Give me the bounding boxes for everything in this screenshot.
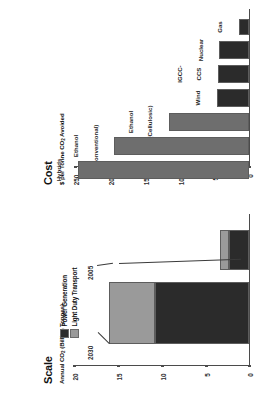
callout-2030: 2030: [87, 346, 94, 360]
bar-2005-power-generation: [229, 230, 249, 270]
scale-tick-0: [248, 365, 251, 366]
bar-label-ethanol-cellulosic: Ethanol (Cellulosic): [114, 106, 167, 139]
scale-ticklabel-20: 20: [72, 373, 79, 380]
bar-label-igcc-ccs-line1: IGCC-: [177, 65, 184, 82]
callout-2005-leader: [97, 263, 113, 266]
bar-igcc-ccs: [218, 65, 249, 83]
bar-label-hybrids-line1: Hybrids: [56, 159, 63, 182]
scale-tick-20: [73, 365, 76, 366]
bar-2005-light-duty-transport: [220, 230, 229, 270]
scale-tick-10: [161, 365, 164, 366]
scale-x-axis: [249, 214, 250, 366]
bar-label-wind-line1: Wind: [195, 91, 202, 106]
scale-axis-title-prefix: Annual CO: [58, 353, 65, 384]
cost-x-axis: [249, 9, 250, 167]
bar-label-gas-line1: Gas: [217, 20, 224, 34]
bar-2005: [220, 230, 249, 270]
scale-ticklabel-0: 0: [247, 373, 252, 377]
bar-ethanol-cellulosic: [169, 113, 249, 131]
bar-nuclear: [219, 41, 248, 59]
scale-panel-title: Scale: [42, 356, 54, 384]
legend-label-power-generation: Power Generation: [61, 275, 68, 327]
bar-label-igcc-ccs-line2: CCS: [196, 65, 203, 82]
scale-tick-15: [117, 365, 120, 366]
bar-hybrids: [78, 161, 249, 179]
panel-cost: Cost $ per Tonne CO2 Avoided 250 200 150…: [34, 0, 252, 199]
bar-label-wind: Wind: [182, 91, 215, 106]
bar-label-ethanol-cellulosic-line2: (Cellulosic): [147, 106, 154, 139]
bar-label-ethanol-cellulosic-line1: Ethanol: [128, 106, 135, 139]
bar-2030-power-generation: [155, 282, 248, 344]
scale-ticklabel-10: 10: [160, 373, 167, 380]
scale-plot-area: 20 15 10 5 0 2030 2005: [74, 214, 250, 366]
scale-ticklabel-15: 15: [116, 373, 123, 380]
bar-ethanol-conventional: [114, 137, 248, 155]
scale-tick-5: [205, 365, 208, 366]
callout-2005: 2005: [87, 266, 94, 280]
bar-2030: [109, 282, 249, 344]
scale-axis-title-subscript: 2: [61, 350, 66, 352]
bar-label-gas: Gas: [204, 20, 237, 34]
scale-ticklabel-5: 5: [204, 373, 211, 377]
legend-swatch-power-generation: [60, 330, 69, 339]
legend-item-power-generation: Power Generation: [60, 268, 69, 338]
panel-scale: Scale Annual CO2 (Billion Tonnes) Power …: [34, 199, 252, 398]
bar-label-nuclear: Nuclear: [185, 39, 218, 61]
bar-label-hybrids: Hybrids: [43, 159, 76, 182]
bar-2030-light-duty-transport: [109, 282, 155, 344]
bar-label-nuclear-line1: Nuclear: [198, 39, 205, 61]
figure: Scale Annual CO2 (Billion Tonnes) Power …: [34, 0, 252, 398]
bar-label-igcc-ccs: IGCC- CCS: [164, 65, 217, 82]
cost-plot-area: 250 200 150 100 50 0 Gas Nuclear IGCC- C…: [74, 9, 250, 167]
bar-wind: [217, 89, 249, 107]
bar-gas: [239, 19, 249, 35]
